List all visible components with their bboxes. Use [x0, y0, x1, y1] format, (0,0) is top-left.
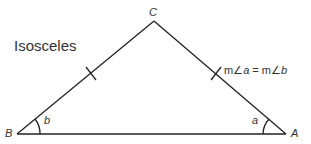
- vertex-label-b: B: [5, 127, 12, 139]
- diagram-title: Isosceles: [14, 37, 77, 54]
- angle-arc-a: [263, 119, 269, 134]
- angle-label-a: a: [252, 114, 258, 126]
- relation-var-b: b: [281, 64, 287, 76]
- tick-mark-ca: [211, 67, 221, 80]
- side-ca: [154, 21, 286, 134]
- vertex-label-c: C: [149, 6, 157, 18]
- relation-equals: = m∠: [249, 64, 281, 76]
- vertex-label-a: A: [291, 127, 298, 139]
- angle-relation: m∠a = m∠b: [224, 64, 287, 77]
- angle-label-b: b: [44, 114, 50, 126]
- tick-mark-bc: [86, 67, 96, 80]
- angle-arc-b: [35, 119, 40, 134]
- relation-prefix: m∠: [224, 64, 243, 76]
